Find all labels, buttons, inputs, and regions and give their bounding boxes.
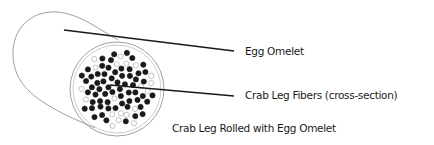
hollow-fiber bbox=[132, 106, 137, 111]
filled-fiber bbox=[130, 55, 135, 60]
filled-fiber bbox=[89, 74, 94, 79]
filled-fiber bbox=[125, 104, 130, 109]
filled-fiber bbox=[150, 93, 155, 98]
filled-fiber bbox=[126, 90, 131, 95]
omelet-cylinder-outline bbox=[13, 12, 118, 128]
filled-fiber bbox=[110, 89, 115, 94]
filled-fiber bbox=[115, 80, 120, 85]
hollow-fiber bbox=[131, 121, 136, 126]
filled-fiber bbox=[90, 100, 95, 105]
filled-fiber bbox=[133, 77, 138, 82]
filled-fiber bbox=[103, 91, 108, 96]
filled-fiber bbox=[105, 100, 110, 105]
filled-fiber bbox=[141, 62, 146, 67]
filled-fiber bbox=[127, 73, 132, 78]
filled-fiber bbox=[100, 63, 105, 68]
filled-fiber bbox=[98, 104, 103, 109]
filled-fiber bbox=[79, 73, 84, 78]
filled-fiber bbox=[138, 104, 143, 109]
hollow-fiber bbox=[118, 54, 123, 59]
filled-fiber bbox=[113, 106, 118, 111]
filled-fiber bbox=[133, 90, 138, 95]
filled-fiber bbox=[82, 106, 87, 111]
filled-fiber bbox=[95, 71, 100, 76]
filled-fiber bbox=[101, 79, 106, 84]
egg-omelet-leader-line bbox=[64, 30, 234, 51]
filled-fiber bbox=[85, 90, 90, 95]
hollow-fiber bbox=[133, 63, 138, 68]
filled-fiber bbox=[106, 65, 111, 70]
filled-fiber bbox=[143, 69, 148, 74]
hollow-fiber bbox=[124, 112, 129, 117]
filled-fiber bbox=[120, 73, 125, 78]
hollow-fiber bbox=[149, 81, 154, 86]
hollow-fiber bbox=[116, 118, 121, 123]
filled-fiber bbox=[112, 52, 117, 57]
filled-fiber bbox=[117, 87, 122, 92]
hollow-fiber bbox=[110, 112, 115, 117]
filled-fiber bbox=[92, 115, 97, 120]
filled-fiber bbox=[85, 67, 90, 72]
filled-fiber bbox=[93, 92, 98, 97]
filled-fiber bbox=[119, 66, 124, 71]
filled-fiber bbox=[104, 118, 109, 123]
hollow-fiber bbox=[83, 97, 88, 102]
hollow-fiber bbox=[79, 86, 84, 91]
filled-fiber bbox=[123, 119, 128, 124]
filled-fiber bbox=[84, 78, 89, 83]
filled-fiber bbox=[113, 70, 118, 75]
filled-fiber bbox=[124, 50, 129, 55]
crab-fibers-group bbox=[79, 50, 155, 128]
filled-fiber bbox=[95, 80, 100, 85]
filled-fiber bbox=[136, 71, 141, 76]
hollow-fiber bbox=[124, 61, 129, 66]
filled-fiber bbox=[109, 76, 114, 81]
hollow-fiber bbox=[92, 56, 97, 61]
filled-fiber bbox=[89, 106, 94, 111]
filled-fiber bbox=[120, 101, 125, 106]
filled-fiber bbox=[127, 67, 132, 72]
filled-fiber bbox=[140, 93, 145, 98]
filled-fiber bbox=[97, 87, 102, 92]
filled-fiber bbox=[102, 72, 107, 77]
filled-fiber bbox=[127, 98, 132, 103]
filled-fiber bbox=[98, 99, 103, 104]
caption: Crab Leg Rolled with Egg Omelet bbox=[172, 122, 336, 134]
hollow-fiber bbox=[149, 73, 154, 78]
hollow-fiber bbox=[93, 65, 98, 70]
filled-fiber bbox=[118, 93, 123, 98]
hollow-fiber bbox=[114, 62, 119, 67]
crab-fibers-label: Crab Leg Fibers (cross-section) bbox=[245, 89, 397, 101]
filled-fiber bbox=[108, 58, 113, 63]
hollow-fiber bbox=[112, 96, 117, 101]
egg-omelet-label: Egg Omelet bbox=[245, 45, 304, 57]
filled-fiber bbox=[106, 106, 111, 111]
filled-fiber bbox=[133, 114, 138, 119]
filled-fiber bbox=[89, 85, 94, 90]
hollow-fiber bbox=[145, 89, 150, 94]
filled-fiber bbox=[135, 97, 140, 102]
filled-fiber bbox=[100, 112, 105, 117]
hollow-fiber bbox=[118, 111, 123, 116]
filled-fiber bbox=[141, 79, 146, 84]
filled-fiber bbox=[140, 112, 145, 117]
filled-fiber bbox=[145, 99, 150, 104]
filled-fiber bbox=[100, 56, 105, 61]
hollow-fiber bbox=[110, 123, 115, 128]
